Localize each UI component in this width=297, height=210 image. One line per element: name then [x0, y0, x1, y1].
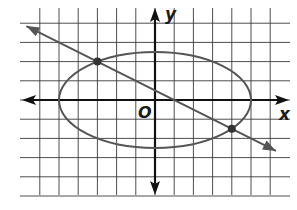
origin-label: O: [138, 103, 152, 122]
line-arrow-right-icon: [262, 141, 276, 151]
y-axis-label: y: [165, 4, 177, 24]
intersection-1-point: [93, 58, 101, 66]
intersection-2-point: [228, 125, 236, 133]
coordinate-graph: y x O: [0, 0, 297, 210]
curves: [26, 26, 276, 151]
line-arrow-left-icon: [26, 26, 40, 36]
line-curve: [26, 26, 276, 151]
x-axis-label: x: [278, 104, 291, 124]
axes: [22, 8, 289, 195]
